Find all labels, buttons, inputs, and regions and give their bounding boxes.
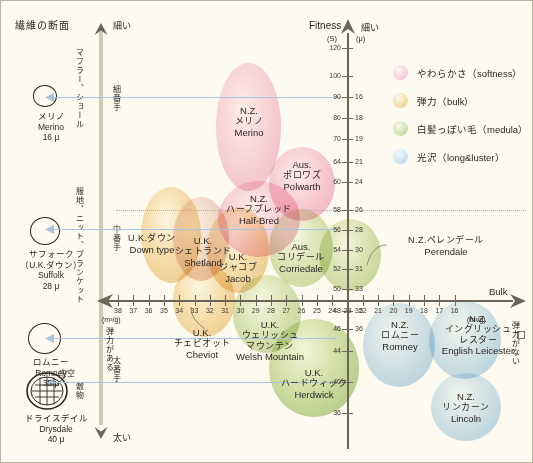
x-tick-label: 24: [325, 307, 339, 314]
y-tick-label-mu: 18: [355, 114, 363, 121]
y-tick-mark: [342, 289, 353, 290]
label-lincoln: N.Z. リンカーン Lincoln: [429, 391, 503, 424]
label-perendale: N.Z.ペレンデール Perendale: [386, 235, 506, 257]
label-welsh-mountain: U.K. ウェリッシュ マウンテン Welsh Mountain: [229, 319, 311, 363]
x-tick-mark: [409, 295, 410, 306]
x-tick-mark: [179, 295, 180, 306]
label-nz-romney-ja: ロムニー: [367, 330, 433, 341]
x-tick-label: 20: [386, 307, 400, 314]
label-herdwick-en: Herdwick: [271, 389, 357, 400]
cross-section-caption-suffolk: サフォーク （U.K.ダウン） Suffolk 28 μ: [1, 249, 101, 292]
x-tick-mark: [363, 295, 364, 306]
y-tick-label-mu: 21: [355, 158, 363, 165]
legend-item-softness: やわらかさ（softness）: [393, 65, 522, 80]
label-half-bred-en: Half-Bred: [212, 215, 306, 226]
guide-line-suffolk: [47, 229, 337, 230]
x-axis-name: Bulk: [489, 286, 507, 297]
y-axis-unit-s: (S): [327, 34, 337, 43]
yarn-count-0: 細番手: [110, 85, 121, 112]
label-half-bred: N.Z. ハーフブレッド Half-Bred: [212, 193, 306, 226]
legend-label-softness: やわらかさ（softness）: [417, 66, 522, 80]
guide-line-merino: [47, 97, 342, 98]
y-tick-label-s: 36: [319, 409, 341, 416]
y-tick-mark: [342, 269, 353, 270]
y-tick-mark: [342, 76, 353, 77]
y-tick-label-s: 50: [319, 285, 341, 292]
xs-ja-3: ドライスデイル: [1, 413, 111, 424]
label-nz-romney: N.Z. ロムニー Romney: [367, 319, 433, 352]
x-tick-label: 36: [142, 307, 156, 314]
legend-swatch-luster: [393, 149, 408, 164]
x-tick-label: 34: [172, 307, 186, 314]
x-tick-label: 19: [402, 307, 416, 314]
y-tick-label-s: 58: [319, 206, 341, 213]
x-axis-line: [101, 300, 513, 302]
label-corriedale: Aus. コリデール Corriedale: [269, 241, 333, 274]
label-el-en: English Leicester: [426, 345, 530, 356]
y-axis-arrow: [340, 19, 356, 37]
xs-micron-0: 16 μ: [1, 132, 101, 143]
x-axis-right-arrow: [506, 293, 526, 309]
label-welsh-region: U.K.: [229, 319, 311, 330]
y-tick-label-mu: 19: [355, 135, 363, 142]
label-corriedale-en: Corriedale: [269, 263, 333, 274]
y-tick-mark: [342, 210, 353, 211]
y-tick-mark: [342, 351, 353, 352]
x-tick-mark: [332, 295, 333, 306]
y-tick-label-s: 80: [319, 114, 341, 121]
y-tick-label-s: 44: [319, 347, 341, 354]
xs-en-0: Merino: [1, 122, 101, 133]
x-axis-unit-left: (m³/g): [102, 316, 121, 323]
y-axis-name: Fitness: [309, 20, 341, 31]
label-shetland-region: U.K.: [167, 235, 239, 246]
label-half-bred-region: N.Z.: [212, 193, 306, 204]
label-merino-region: N.Z.: [215, 105, 283, 116]
legend-swatch-medula: [393, 121, 408, 136]
label-corriedale-region: Aus.: [269, 241, 333, 252]
label-merino: N.Z. メリノ Merino: [215, 105, 283, 138]
label-herdwick-ja: ハードウィック: [271, 378, 357, 389]
perendale-leader: [361, 243, 389, 267]
legend-swatch-bulk: [393, 93, 408, 108]
legend-label-bulk: 弾力（bulk）: [417, 94, 474, 108]
x-tick-mark: [317, 295, 318, 306]
y-tick-label-s: 46: [319, 325, 341, 332]
x-tick-label: 38: [111, 307, 125, 314]
label-polwarth-ja: ポロワズ: [267, 170, 337, 181]
label-el-ja1: イングリッシュ: [426, 324, 530, 335]
x-tick-mark: [271, 295, 272, 306]
label-welsh-ja2: マウンテン: [229, 341, 311, 352]
y-tick-label-mu: 33: [355, 285, 363, 292]
y-tick-label-mu: 28: [355, 226, 363, 233]
x-tick-label: 30: [233, 307, 247, 314]
x-tick-mark: [348, 295, 349, 306]
x-tick-mark: [393, 295, 394, 306]
label-herdwick-region: U.K.: [271, 367, 357, 378]
x-tick-mark: [424, 295, 425, 306]
x-tick-mark: [149, 295, 150, 306]
label-lincoln-ja: リンカーン: [429, 402, 503, 413]
label-half-bred-ja: ハーフブレッド: [212, 204, 306, 215]
label-jacob-region: U.K.: [207, 251, 269, 262]
label-jacob-ja: ジャコブ: [207, 262, 269, 273]
xs-ja-2: ロムニー: [1, 357, 101, 368]
y-tick-label-mu: 24: [355, 178, 363, 185]
label-herdwick: U.K. ハードウィック Herdwick: [271, 367, 357, 400]
legend-item-luster: 光沢（long&luster）: [393, 149, 505, 164]
y-tick-mark: [342, 97, 353, 98]
label-jacob-en: Jacob: [207, 273, 269, 284]
x-tick-label: 28: [264, 307, 278, 314]
label-welsh-ja1: ウェリッシュ: [229, 330, 311, 341]
x-axis-left-note: 弾力がある: [103, 327, 114, 372]
x-tick-mark: [164, 295, 165, 306]
y-tick-mark: [342, 413, 353, 414]
legend-label-luster: 光沢（long&luster）: [417, 150, 505, 164]
left-axis-bottom-label: 太い: [113, 431, 131, 444]
label-nz-romney-en: Romney: [367, 341, 433, 352]
xs-en-1: Suffolk: [1, 270, 101, 281]
x-tick-mark: [439, 295, 440, 306]
label-jacob: U.K. ジャコブ Jacob: [207, 251, 269, 284]
label-polwarth-region: Aus.: [267, 159, 337, 170]
y-tick-mark: [342, 162, 353, 163]
x-tick-label: 23: [341, 307, 355, 314]
